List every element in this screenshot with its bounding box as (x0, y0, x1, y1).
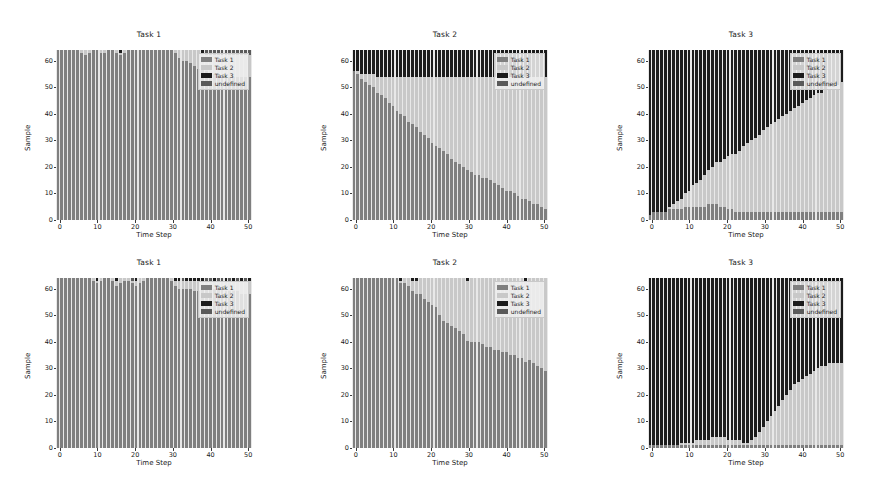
legend-item[interactable]: undefined (201, 80, 245, 87)
y-tick-mark (646, 368, 649, 369)
legend-item[interactable]: Task 1 (793, 56, 837, 63)
legend-swatch-icon (201, 285, 212, 290)
legend-item[interactable]: Task 3 (793, 72, 837, 79)
bar-segment-task-2 (840, 82, 843, 212)
x-tick-mark (97, 448, 98, 451)
y-tick-mark (646, 395, 649, 396)
legend-label: Task 2 (215, 292, 234, 299)
x-tick-mark (840, 448, 841, 451)
y-tick-mark (350, 421, 353, 422)
plot-area: 010203040506001020304050Time StepSampleT… (648, 50, 844, 220)
legend-item[interactable]: Task 2 (793, 64, 837, 71)
legend-label: Task 3 (807, 300, 826, 307)
legend-label: Task 2 (215, 64, 234, 71)
legend-item[interactable]: Task 3 (497, 300, 541, 307)
plot-area: 010203040506001020304050Time StepSampleT… (352, 50, 548, 220)
legend-item[interactable]: Task 1 (201, 284, 245, 291)
legend-item[interactable]: Task 3 (201, 300, 245, 307)
y-tick-mark (646, 61, 649, 62)
legend-label: undefined (807, 80, 837, 87)
legend-swatch-icon (201, 293, 212, 298)
legend-swatch-icon (793, 293, 804, 298)
legend-item[interactable]: Task 3 (497, 72, 541, 79)
x-tick-mark (727, 448, 728, 451)
subplot-title: Task 2 (300, 258, 590, 267)
y-tick-mark (646, 87, 649, 88)
legend-label: undefined (511, 308, 541, 315)
x-axis-label: Time Step (648, 459, 844, 467)
plot-area: 010203040506001020304050Time StepSampleT… (648, 278, 844, 448)
legend-swatch-icon (201, 73, 212, 78)
legend-item[interactable]: Task 2 (793, 292, 837, 299)
legend-label: undefined (807, 308, 837, 315)
y-tick-mark (54, 193, 57, 194)
legend-swatch-icon (201, 57, 212, 62)
y-tick-mark (646, 315, 649, 316)
legend-label: Task 1 (511, 284, 530, 291)
legend-item[interactable]: undefined (497, 308, 541, 315)
legend-item[interactable]: Task 1 (793, 284, 837, 291)
y-tick-mark (350, 368, 353, 369)
bar-segment-task-1 (544, 371, 547, 448)
y-tick-mark (350, 61, 353, 62)
legend-item[interactable]: undefined (201, 308, 245, 315)
y-axis-label: Sample (320, 353, 328, 379)
subplot-top-right: Task 3010203040506001020304050Time StepS… (596, 22, 886, 250)
y-tick-mark (350, 395, 353, 396)
legend-swatch-icon (793, 57, 804, 62)
y-tick-mark (350, 315, 353, 316)
y-tick-mark (350, 220, 353, 221)
y-tick-mark (350, 289, 353, 290)
legend-label: Task 2 (807, 64, 826, 71)
legend: Task 1Task 2Task 3undefined (198, 53, 249, 90)
x-tick-mark (689, 220, 690, 223)
y-tick-mark (54, 315, 57, 316)
legend-item[interactable]: Task 3 (201, 72, 245, 79)
legend-swatch-icon (201, 81, 212, 86)
legend-item[interactable]: undefined (497, 80, 541, 87)
legend-label: Task 3 (215, 300, 234, 307)
legend-swatch-icon (201, 65, 212, 70)
legend-swatch-icon (793, 81, 804, 86)
subplot-bottom-left: Task 1010203040506001020304050Time StepS… (4, 250, 294, 478)
legend-item[interactable]: Task 3 (793, 300, 837, 307)
legend-item[interactable]: undefined (793, 308, 837, 315)
x-tick-mark (803, 448, 804, 451)
legend-item[interactable]: Task 2 (497, 292, 541, 299)
legend-item[interactable]: Task 1 (497, 284, 541, 291)
y-tick-mark (350, 342, 353, 343)
x-axis-label: Time Step (648, 231, 844, 239)
legend-item[interactable]: Task 1 (497, 56, 541, 63)
legend: Task 1Task 2Task 3undefined (198, 281, 249, 318)
subplot-title: Task 3 (596, 30, 886, 39)
legend-item[interactable]: Task 2 (201, 292, 245, 299)
x-tick-mark (211, 448, 212, 451)
legend-item[interactable]: Task 2 (201, 64, 245, 71)
y-tick-mark (350, 114, 353, 115)
y-tick-mark (646, 421, 649, 422)
legend-label: Task 1 (511, 56, 530, 63)
y-tick-mark (646, 448, 649, 449)
legend-swatch-icon (793, 65, 804, 70)
legend-item[interactable]: Task 1 (201, 56, 245, 63)
x-tick-mark (544, 220, 545, 223)
y-tick-mark (54, 289, 57, 290)
y-tick-mark (646, 193, 649, 194)
legend-swatch-icon (793, 301, 804, 306)
legend-swatch-icon (497, 73, 508, 78)
x-tick-mark (544, 448, 545, 451)
y-tick-mark (54, 421, 57, 422)
subplot-top-left: Task 1010203040506001020304050Time StepS… (4, 22, 294, 250)
legend-label: Task 3 (511, 72, 530, 79)
legend-label: Task 2 (511, 64, 530, 71)
y-tick-mark (350, 140, 353, 141)
y-tick-mark (54, 61, 57, 62)
bar-segment-task-1 (248, 77, 251, 220)
legend-swatch-icon (497, 57, 508, 62)
legend-swatch-icon (793, 309, 804, 314)
legend-item[interactable]: undefined (793, 80, 837, 87)
y-tick-mark (350, 448, 353, 449)
legend-item[interactable]: Task 2 (497, 64, 541, 71)
x-tick-mark (211, 220, 212, 223)
x-tick-mark (60, 220, 61, 223)
